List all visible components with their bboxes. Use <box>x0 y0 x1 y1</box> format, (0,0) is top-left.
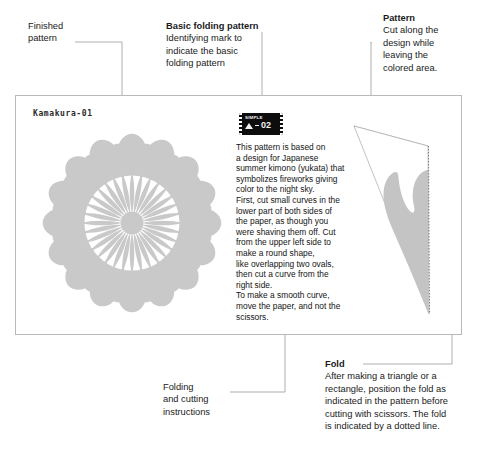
instruction-line: a design for Japanese <box>236 153 364 164</box>
instruction-line: from the upper left side to <box>236 237 364 248</box>
callout-line: Cut along the <box>383 24 438 36</box>
instruction-line: This pattern is based on <box>236 142 364 153</box>
badge-perforation-right <box>280 113 283 135</box>
callout-line: cutting with scissors. The fold <box>325 408 448 420</box>
badge-label: SIMPLE <box>245 115 263 120</box>
triangle-fold-icon <box>245 123 253 129</box>
badge-row: 02 <box>245 121 271 130</box>
pattern-sheet-page: Finished pattern Basic folding pattern I… <box>0 0 477 451</box>
instruction-line: were shaving them off. Cut <box>236 227 364 238</box>
instruction-line: lower part of both sides of <box>236 206 364 217</box>
callout-line: Identifying mark to <box>166 32 258 44</box>
finished-rosette-pattern <box>37 128 227 318</box>
instruction-line: the paper, as though you <box>236 216 364 227</box>
badge-dash <box>255 125 259 126</box>
callout-basic-folding-pattern: Basic folding pattern Identifying mark t… <box>166 20 258 70</box>
instruction-line: move the paper, and not the <box>236 301 364 312</box>
callout-fold: Fold After making a triangle or a rectan… <box>325 358 448 432</box>
folded-wedge-diagram <box>352 118 462 323</box>
instruction-line: scissors. <box>236 312 364 323</box>
pattern-code-label: Kamakura-01 <box>33 109 93 118</box>
callout-line: rectangle, position the fold as <box>325 383 448 395</box>
instruction-line: summer kimono (yukata) that <box>236 163 364 174</box>
instruction-line: First, cut small curves in the <box>236 195 364 206</box>
callout-heading: Pattern <box>383 12 438 24</box>
callout-pattern: Pattern Cut along the design while leavi… <box>383 12 438 74</box>
instruction-line: symbolizes fireworks giving <box>236 174 364 185</box>
callout-line: After making a triangle or a <box>325 370 448 382</box>
callout-line: Folding <box>163 381 210 393</box>
instruction-text: This pattern is based ona design for Jap… <box>236 142 364 322</box>
callout-line: instructions <box>163 406 210 418</box>
instruction-line: then cut a curve from the <box>236 269 364 280</box>
callout-line: design while <box>383 37 438 49</box>
basic-folding-pattern-badge: SIMPLE 02 <box>239 113 283 135</box>
callout-line: and cutting <box>163 393 210 405</box>
callout-line: pattern <box>28 32 63 44</box>
instruction-line: right side. <box>236 280 364 291</box>
callout-heading: Fold <box>325 358 448 370</box>
badge-perforation-left <box>239 113 242 135</box>
instruction-line: To make a smooth curve, <box>236 290 364 301</box>
callout-line: Finished <box>28 20 63 32</box>
instruction-line: make a round shape, <box>236 248 364 259</box>
instruction-line: color to the night sky. <box>236 184 364 195</box>
callout-line: indicated in the pattern before <box>325 395 448 407</box>
callout-heading: Basic folding pattern <box>166 20 258 32</box>
badge-number: 02 <box>261 121 271 130</box>
callout-line: indicate the basic <box>166 45 258 57</box>
callout-line: folding pattern <box>166 57 258 69</box>
callout-line: colored area. <box>383 62 438 74</box>
instruction-line: like overlapping two ovals, <box>236 259 364 270</box>
callout-folding-and-cutting-instructions: Folding and cutting instructions <box>163 381 210 418</box>
callout-line: is indicated by a dotted line. <box>325 420 448 432</box>
callout-finished-pattern: Finished pattern <box>28 20 63 45</box>
callout-line: leaving the <box>383 49 438 61</box>
